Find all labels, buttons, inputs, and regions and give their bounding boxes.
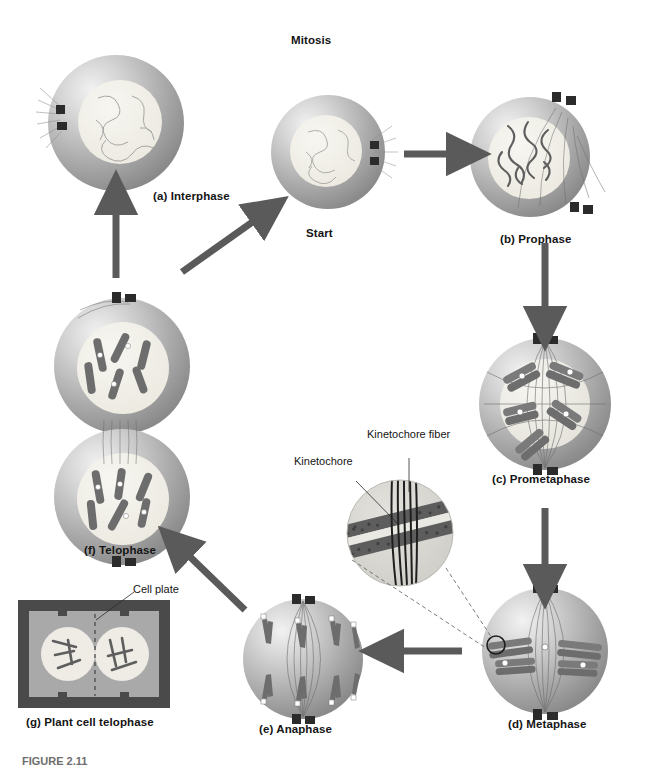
kinetochore-dot xyxy=(542,644,548,650)
figure-caption: FIGURE 2.11 xyxy=(22,755,87,767)
centriole xyxy=(112,556,121,567)
centriole xyxy=(547,585,558,593)
mitosis-diagram-canvas xyxy=(0,0,651,768)
stage-prophase xyxy=(470,92,605,217)
kinetochore-dot xyxy=(502,660,508,666)
centriole xyxy=(112,292,121,303)
label-kinetochore: Kinetochore xyxy=(294,455,353,467)
kinetochore-dot xyxy=(563,411,569,417)
label-kinetochore-fiber: Kinetochore fiber xyxy=(367,428,450,440)
label-start: Start xyxy=(306,227,333,239)
label-plant-telophase: (g) Plant cell telophase xyxy=(26,716,154,728)
centriole xyxy=(370,157,379,165)
stage-start xyxy=(271,95,398,209)
centriole xyxy=(125,294,136,302)
centriole xyxy=(533,582,542,593)
plant-daughter-nucleus xyxy=(41,627,95,681)
label-prophase: (b) Prophase xyxy=(500,233,572,245)
centriole xyxy=(547,336,558,344)
centriole xyxy=(57,122,67,130)
arrow-anaphase-to-telophase xyxy=(185,552,245,610)
label-metaphase: (d) Metaphase xyxy=(508,718,587,730)
inset-link-lower xyxy=(446,568,492,638)
figure-title: Mitosis xyxy=(291,34,331,46)
stage-plant-cell-telophase xyxy=(18,592,170,708)
centriole xyxy=(552,92,561,102)
centriole xyxy=(533,333,542,344)
label-anaphase: (e) Anaphase xyxy=(259,723,332,735)
stage-interphase xyxy=(36,55,184,191)
label-cell-plate: Cell plate xyxy=(133,583,179,595)
arrow-telophase-to-start xyxy=(182,218,258,272)
label-telophase: (f) Telophase xyxy=(84,544,156,556)
label-interphase: (a) Interphase xyxy=(153,190,230,202)
kinetochore-dot xyxy=(580,662,586,668)
stage-prometaphase xyxy=(479,333,611,475)
kinetochore-dot xyxy=(517,409,523,415)
centriole xyxy=(56,105,65,114)
centriole xyxy=(305,596,315,604)
kinetochore-dot xyxy=(519,373,525,379)
mitosis-figure: Mitosis (a) Interphase Start (b) Prophas… xyxy=(0,0,651,768)
kinetochore-inset xyxy=(337,458,492,648)
plant-daughter-nucleus xyxy=(95,627,149,681)
label-prometaphase: (c) Prometaphase xyxy=(492,473,590,485)
centriole xyxy=(125,558,136,566)
centriole xyxy=(583,205,593,214)
centriole xyxy=(566,96,576,105)
stage-metaphase xyxy=(482,582,608,720)
stage-anaphase xyxy=(243,594,363,724)
centriole xyxy=(370,141,379,149)
stage-telophase xyxy=(54,292,190,567)
kinetochore-dot xyxy=(567,369,573,375)
centriole xyxy=(570,202,579,212)
centriole xyxy=(292,594,301,604)
